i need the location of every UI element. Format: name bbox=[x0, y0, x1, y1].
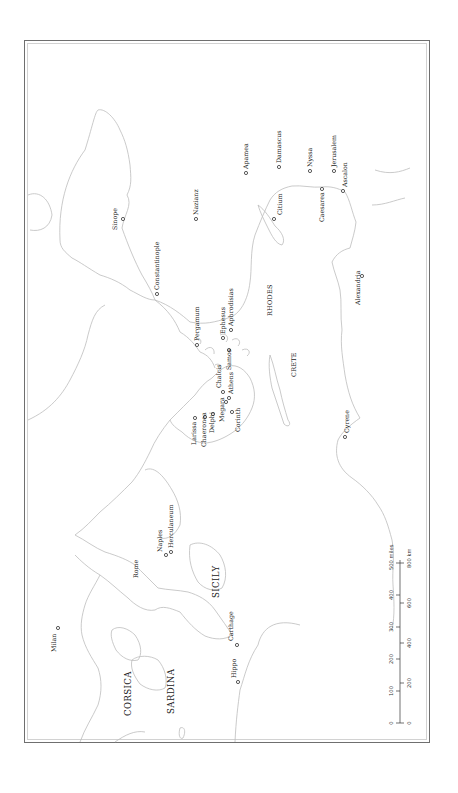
city-label-megara[interactable]: Megara bbox=[218, 397, 226, 422]
scale-label-miles-300: 300 bbox=[388, 622, 394, 632]
scale-label-miles-500: 500 miles bbox=[388, 544, 394, 570]
city-marker-ascalon[interactable] bbox=[341, 189, 344, 192]
city-label-nyssa[interactable]: Nyssa bbox=[306, 147, 314, 167]
balearic-island bbox=[179, 728, 184, 739]
city-label-citium[interactable]: Citium bbox=[276, 194, 283, 215]
region-labels: CORSICA SARDINA SICILY CRETE RHODES bbox=[123, 284, 298, 716]
city-marker-pergamum[interactable] bbox=[195, 343, 198, 346]
city-label-constantinople[interactable]: Constantinople bbox=[153, 241, 161, 290]
city-marker-larissa[interactable] bbox=[193, 416, 196, 419]
city-label-milan[interactable]: Milan bbox=[50, 634, 57, 652]
city-marker-sinope[interactable] bbox=[121, 217, 124, 220]
black-sea-coast bbox=[60, 110, 155, 300]
city-marker-naples[interactable] bbox=[164, 553, 167, 556]
italy-coast bbox=[75, 535, 232, 639]
scale-label-km-600: 600 bbox=[406, 598, 412, 608]
city-marker-carthage[interactable] bbox=[235, 643, 238, 646]
city-marker-chalcis[interactable] bbox=[221, 390, 224, 393]
city-label-jerusalem[interactable]: Jerusalem bbox=[330, 135, 338, 168]
city-label-nazianz[interactable]: Nazianz bbox=[192, 189, 199, 215]
city-label-aphrodisias[interactable]: Aphrodisias bbox=[227, 288, 235, 327]
sardinia-coast bbox=[131, 656, 166, 690]
scale-bar: 0 100 200 300 400 500 miles 0 200 400 60… bbox=[388, 544, 412, 724]
city-label-chalcis[interactable]: Chalcis bbox=[215, 365, 222, 388]
cities: Milan Rome Naples Herculaneum Carthage H… bbox=[50, 130, 364, 683]
city-label-chaeronea[interactable]: Chaeronea bbox=[200, 412, 207, 447]
city-marker-athens[interactable] bbox=[227, 396, 230, 399]
scale-label-miles-200: 200 bbox=[388, 654, 394, 664]
sea-of-azov bbox=[28, 194, 52, 231]
scale-label-km-200: 200 bbox=[406, 678, 412, 688]
italy-heel bbox=[145, 469, 181, 539]
city-label-hippo[interactable]: Hippo bbox=[230, 658, 238, 678]
city-label-carthage[interactable]: Carthage bbox=[227, 611, 235, 641]
libya-coast bbox=[337, 418, 394, 630]
city-marker-herculaneum[interactable] bbox=[169, 550, 172, 553]
anatolia-levant-coast bbox=[155, 186, 356, 323]
asia-minor-west-coast bbox=[155, 300, 215, 368]
city-marker-nyssa[interactable] bbox=[308, 169, 311, 172]
city-marker-cyrene[interactable] bbox=[343, 435, 346, 438]
city-label-pergamum[interactable]: Pergamum bbox=[193, 306, 201, 341]
gaul-coast bbox=[80, 575, 101, 742]
crete-coast bbox=[269, 355, 289, 426]
city-label-ephesus[interactable]: Ephesus bbox=[219, 307, 227, 334]
scale-label-km-0: 0 bbox=[406, 721, 412, 724]
city-marker-caesarea[interactable] bbox=[320, 187, 323, 190]
city-marker-citium[interactable] bbox=[272, 217, 275, 220]
city-label-samos[interactable]: Samos bbox=[225, 349, 232, 370]
region-sicily: SICILY bbox=[211, 566, 221, 598]
city-label-corinth[interactable]: Corinth bbox=[234, 408, 241, 432]
city-marker-jerusalem[interactable] bbox=[332, 169, 335, 172]
city-label-larissa[interactable]: Larissa bbox=[190, 422, 197, 445]
region-sardina: SARDINA bbox=[166, 668, 176, 714]
city-label-athens[interactable]: Athens bbox=[227, 372, 234, 395]
city-label-ascalon[interactable]: Ascalon bbox=[341, 162, 348, 188]
city-label-apamea[interactable]: Apamea bbox=[242, 143, 250, 170]
region-corsica: CORSICA bbox=[123, 671, 133, 716]
city-marker-milan[interactable] bbox=[56, 626, 59, 629]
city-label-naples[interactable]: Naples bbox=[156, 530, 164, 552]
coastlines bbox=[28, 110, 410, 742]
city-marker-nazianz[interactable] bbox=[194, 217, 197, 220]
scale-label-miles-400: 400 bbox=[388, 590, 394, 600]
scale-label-km-400: 400 bbox=[406, 638, 412, 648]
north-africa-west-coast bbox=[235, 623, 300, 742]
city-marker-ephesus[interactable] bbox=[221, 336, 224, 339]
city-label-herculaneum[interactable]: Herculaneum bbox=[167, 505, 174, 548]
city-marker-constantinople[interactable] bbox=[155, 292, 158, 295]
region-rhodes: RHODES bbox=[266, 284, 274, 316]
city-marker-hippo[interactable] bbox=[236, 680, 239, 683]
city-label-delphi[interactable]: Delphi bbox=[208, 412, 216, 433]
city-label-caesarea[interactable]: Caesarea bbox=[318, 192, 325, 222]
scale-label-km-800: 800 km bbox=[406, 548, 412, 568]
city-label-damascus[interactable]: Damascus bbox=[275, 130, 282, 163]
city-label-rome[interactable]: Rome bbox=[132, 559, 139, 578]
danube-border bbox=[28, 305, 105, 420]
city-marker-aphrodisias[interactable] bbox=[229, 328, 232, 331]
region-crete: CRETE bbox=[290, 352, 298, 377]
city-marker-apamea[interactable] bbox=[244, 171, 247, 174]
city-label-sinope[interactable]: Sinope bbox=[111, 208, 119, 230]
iberia-coast bbox=[115, 732, 145, 742]
city-marker-damascus[interactable] bbox=[277, 165, 280, 168]
scale-label-miles-100: 100 bbox=[388, 686, 394, 696]
map-canvas: CORSICA SARDINA SICILY CRETE RHODES Mila… bbox=[0, 0, 458, 793]
sinai-coast bbox=[372, 168, 410, 205]
corsica-coast bbox=[111, 628, 140, 661]
scale-label-miles-0: 0 bbox=[388, 721, 394, 724]
city-label-alexandria[interactable]: Alexandria bbox=[354, 270, 361, 306]
balkan-coast bbox=[75, 420, 170, 535]
city-label-cyrene[interactable]: Cyrene bbox=[343, 410, 351, 433]
